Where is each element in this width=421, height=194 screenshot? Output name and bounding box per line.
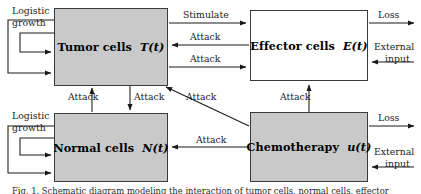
label-attack-chemo-to-tumor: Attack [186, 92, 216, 102]
node-tumor-cells[interactable]: Tumor cells T(t) [54, 8, 168, 86]
label-logistic-growth-normal-line2: growth [12, 123, 46, 133]
label-attack-tumor-to-effector: Attack [190, 54, 220, 64]
figure-caption: Fig. 1. Schematic diagram modeling the i… [12, 186, 389, 194]
node-tumor-cells-label: Tumor cells T(t) [58, 40, 165, 54]
label-attack-effector-to-tumor: Attack [190, 32, 220, 42]
node-effector-cells[interactable]: Effector cells E(t) [250, 10, 368, 81]
label-logistic-growth-tumor-line1: Logistic [12, 6, 49, 16]
label-attack-tumor-to-normal: Attack [134, 92, 164, 102]
label-attack-normal-to-tumor: Attack [68, 92, 98, 102]
label-logistic-growth-normal-line1: Logistic [12, 111, 49, 121]
node-normal-cells-label: Normal cells N(t) [53, 141, 168, 155]
label-external-input-effector-line2: input [385, 54, 410, 64]
label-attack-chemo-to-normal: Attack [196, 135, 226, 145]
figure-canvas: Tumor cells T(t) Effector cells E(t) Nor… [0, 0, 421, 194]
node-normal-cells[interactable]: Normal cells N(t) [54, 113, 168, 182]
tumor-logistic-inner-loop [20, 33, 54, 52]
label-stimulate: Stimulate [183, 10, 229, 20]
label-attack-chemo-to-effector: Attack [280, 92, 310, 102]
label-loss-chemo: Loss [378, 113, 399, 123]
normal-logistic-inner-loop [20, 138, 54, 155]
label-loss-effector: Loss [378, 10, 399, 20]
label-logistic-growth-tumor-line2: growth [12, 18, 46, 28]
node-chemotherapy-label: Chemotherapy u(t) [247, 140, 372, 154]
label-external-input-chemo-line1: External [374, 147, 414, 157]
label-external-input-chemo-line2: input [385, 159, 410, 169]
node-chemotherapy[interactable]: Chemotherapy u(t) [250, 112, 368, 182]
label-external-input-effector-line1: External [374, 42, 414, 52]
node-effector-cells-label: Effector cells E(t) [250, 39, 367, 53]
